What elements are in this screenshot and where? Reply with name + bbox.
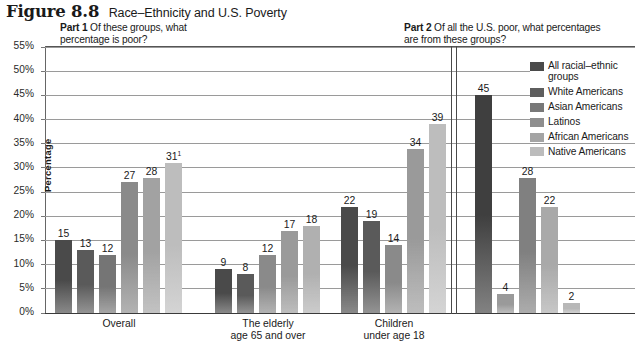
bar-p2-african: 2 <box>563 303 580 313</box>
bar-p2-all: 45 <box>475 95 492 313</box>
bar-value-label: 12 <box>102 243 114 254</box>
part1-caption: Part 1 Of these groups, what percentage … <box>60 22 230 46</box>
part2-caption: Part 2 Of all the U.S. poor, what percen… <box>404 22 614 46</box>
bar-value-label: 4 <box>503 282 509 293</box>
part-divider-a <box>451 46 452 314</box>
part1-tag: Part 1 <box>60 22 87 33</box>
y-axis-label: 20% <box>0 209 34 220</box>
group-label-line: age 65 and over <box>230 330 305 342</box>
legend-swatch-icon <box>530 88 544 97</box>
bar-p1-overall-asian: 12 <box>99 255 116 313</box>
y-tick-10 <box>41 264 45 265</box>
bar-p1-elderly-all: 9 <box>215 269 232 313</box>
legend-label: Native Americans <box>548 146 626 157</box>
legend-label: African Americans <box>548 131 628 142</box>
group-label-line: under age 18 <box>363 330 424 342</box>
y-axis-label: 40% <box>0 113 34 124</box>
y-tick-40 <box>41 119 45 120</box>
legend-swatch-icon <box>530 133 544 142</box>
legend-label: All racial–ethnic groups <box>548 60 636 83</box>
bar-p1-elderly-african: 18 <box>303 226 320 313</box>
bar-p1-children-native: 39 <box>429 124 446 313</box>
bar-p1-elderly-white: 8 <box>237 274 254 313</box>
y-axis-label: 45% <box>0 88 34 99</box>
bar-p1-overall-white: 13 <box>77 250 94 313</box>
group-label-elderly: The elderlyage 65 and over <box>230 318 305 342</box>
legend-item-4[interactable]: African Americans <box>530 131 636 142</box>
part-divider-b <box>456 46 457 314</box>
y-axis-label: 10% <box>0 258 34 269</box>
group-label-line: Overall <box>103 318 136 330</box>
bar-p2-latino: 22 <box>541 207 558 313</box>
bar-value-label: 9 <box>221 257 227 268</box>
bar-p1-overall-native: 311 <box>165 163 182 313</box>
bar-value-label: 15 <box>58 228 70 239</box>
bar-value-label: 22 <box>344 195 356 206</box>
y-axis-label: 50% <box>0 64 34 75</box>
bar-p1-overall-all: 15 <box>55 240 72 313</box>
bar-value-label: 28 <box>522 166 534 177</box>
y-axis-label: 0% <box>0 306 34 317</box>
legend-item-3[interactable]: Latinos <box>530 116 636 127</box>
bar-value-label: 27 <box>124 170 136 181</box>
y-axis-title: Percentage <box>42 138 53 192</box>
bar-value-label: 34 <box>410 137 422 148</box>
bar-value-label: 19 <box>366 209 378 220</box>
gridline-55 <box>45 47 635 48</box>
y-tick-45 <box>41 95 45 96</box>
gridline-30 <box>45 167 635 168</box>
bar-p1-elderly-asian: 12 <box>259 255 276 313</box>
legend-label: Latinos <box>548 116 580 127</box>
legend-item-5[interactable]: Native Americans <box>530 146 636 157</box>
y-axis-label: 55% <box>0 40 34 51</box>
bar-value-label: 13 <box>80 238 92 249</box>
y-tick-20 <box>41 216 45 217</box>
legend-swatch-icon <box>530 62 544 71</box>
bar-value-label: 12 <box>262 243 274 254</box>
figure-number: Figure 8.8 <box>6 2 99 21</box>
footnote-marker: 1 <box>177 150 181 157</box>
y-tick-0 <box>41 313 45 314</box>
legend-item-1[interactable]: White Americans <box>530 86 636 97</box>
bar-value-label: 39 <box>432 112 444 123</box>
legend-item-0[interactable]: All racial–ethnic groups <box>530 60 636 83</box>
y-tick-55 <box>41 47 45 48</box>
legend-swatch-icon <box>530 118 544 127</box>
bar-value-label: 14 <box>388 233 400 244</box>
bar-value-label: 2 <box>569 291 575 302</box>
chart-legend: All racial–ethnic groupsWhite AmericansA… <box>530 60 636 161</box>
bar-p1-elderly-latino: 17 <box>281 231 298 313</box>
part2-tag: Part 2 <box>404 22 431 33</box>
bar-p1-children-latino: 34 <box>407 149 424 313</box>
y-tick-50 <box>41 71 45 72</box>
y-axis-label: 25% <box>0 185 34 196</box>
bar-value-label: 45 <box>478 83 490 94</box>
y-axis-label: 30% <box>0 161 34 172</box>
legend-label: Asian Americans <box>548 101 622 112</box>
bar-p1-children-white: 19 <box>363 221 380 313</box>
bar-value-label: 17 <box>284 219 296 230</box>
legend-item-2[interactable]: Asian Americans <box>530 101 636 112</box>
figure-header: Figure 8.8 Race–Ethnicity and U.S. Pover… <box>6 2 287 21</box>
bar-value-label: 22 <box>544 195 556 206</box>
group-label-overall: Overall <box>103 318 136 330</box>
y-axis-label: 35% <box>0 137 34 148</box>
y-tick-15 <box>41 240 45 241</box>
part2-text: Of all the U.S. poor, what percentages a… <box>404 22 601 45</box>
bar-value-label: 18 <box>306 214 318 225</box>
bar-p1-overall-latino: 27 <box>121 182 138 313</box>
legend-label: White Americans <box>548 86 623 97</box>
bar-value-label: 8 <box>243 262 249 273</box>
bar-value-label: 28 <box>146 166 158 177</box>
y-axis-label: 15% <box>0 233 34 244</box>
bar-p1-overall-african: 28 <box>143 178 160 313</box>
bar-p1-children-all: 22 <box>341 207 358 313</box>
bar-p2-asian: 28 <box>519 178 536 313</box>
group-label-children: Childrenunder age 18 <box>363 318 424 342</box>
y-tick-5 <box>41 288 45 289</box>
bar-p2-white: 4 <box>497 294 514 313</box>
bar-value-label: 311 <box>166 151 181 162</box>
y-axis-label: 5% <box>0 282 34 293</box>
group-label-line: Children <box>363 318 424 330</box>
legend-swatch-icon <box>530 147 544 156</box>
